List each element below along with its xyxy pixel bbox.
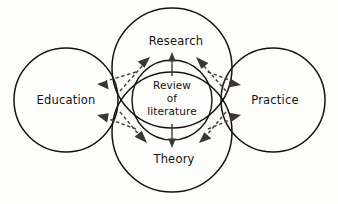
review-label-line-3: literature: [147, 105, 196, 117]
arrow-core-to-theory-lower-right: [199, 112, 226, 143]
practice-label: Practice: [251, 93, 299, 107]
venn-diagram-svg: Education Research Theory Practice Revie…: [0, 0, 338, 204]
theory-label: Theory: [152, 152, 194, 166]
venn-diagram-canvas: Education Research Theory Practice Revie…: [0, 0, 338, 204]
arrow-core-to-education-lower: [97, 113, 136, 129]
review-label-line-1: Review: [153, 79, 191, 91]
review-label-line-2: of: [167, 92, 178, 104]
education-label: Education: [36, 93, 95, 107]
research-label: Research: [149, 34, 203, 48]
